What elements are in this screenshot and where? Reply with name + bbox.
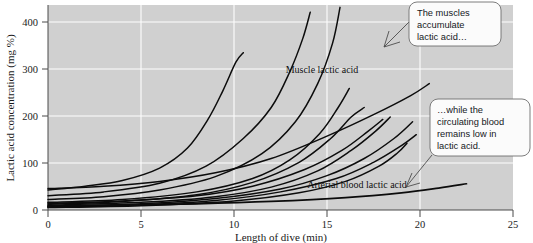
- xtick-label-20: 20: [415, 219, 426, 230]
- y-axis-ticks: [42, 22, 48, 210]
- x-axis-ticks: [48, 210, 513, 217]
- callout-muscles-line-3: lactic acid…: [417, 32, 467, 42]
- xtick-label-0: 0: [45, 219, 50, 230]
- callout-blood-line-3: remains low in: [437, 129, 496, 139]
- y-axis-tick-labels: 400 300 200 100 0: [22, 17, 38, 216]
- ytick-label-0: 0: [33, 205, 38, 216]
- x-axis-title: Length of dive (min): [235, 231, 327, 243]
- xtick-label-10: 10: [229, 219, 240, 230]
- callout-muscles-line-2: accumulate: [417, 20, 465, 30]
- ytick-label-200: 200: [22, 111, 38, 122]
- callout-muscles-line-1: The muscles: [417, 8, 470, 18]
- callout-blood-line-1: …while the: [437, 105, 483, 115]
- y-axis-title: Lactic acid concentration (mg %): [4, 34, 17, 182]
- xtick-label-5: 5: [138, 219, 143, 230]
- ytick-label-300: 300: [22, 64, 38, 75]
- ytick-label-100: 100: [22, 158, 38, 169]
- xtick-label-15: 15: [322, 219, 333, 230]
- callout-blood-line-4: lactic acid.: [437, 141, 480, 151]
- lactic-acid-chart: 400 300 200 100 0 0 5 10 15 20 25 Length…: [0, 0, 533, 243]
- arterial-blood-lactic-acid-label: Arterial blood lactic acid: [307, 179, 407, 190]
- callout-blood-line-2: circulating blood: [437, 117, 504, 127]
- xtick-label-25: 25: [508, 219, 519, 230]
- lactic-acid-dive-figure: 400 300 200 100 0 0 5 10 15 20 25 Length…: [0, 0, 533, 243]
- muscle-lactic-acid-label: Muscle lactic acid: [286, 64, 359, 75]
- ytick-label-400: 400: [22, 17, 38, 28]
- x-axis-tick-labels: 0 5 10 15 20 25: [45, 219, 518, 230]
